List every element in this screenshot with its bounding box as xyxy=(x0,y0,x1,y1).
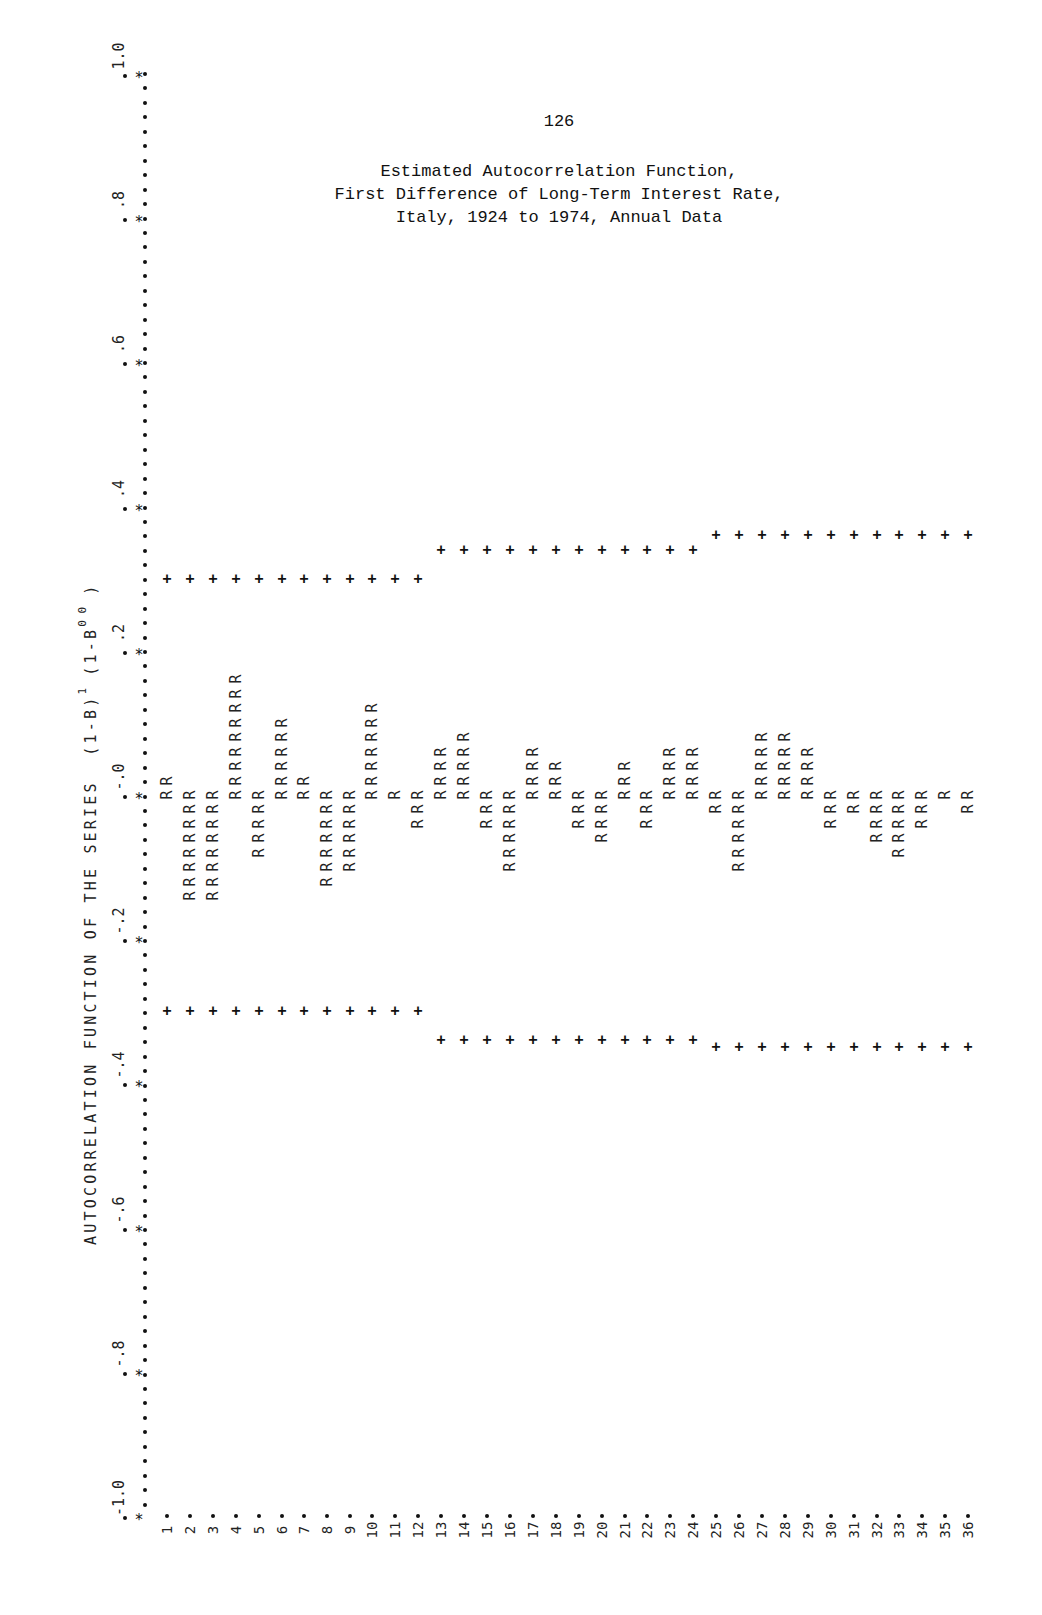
axis-dot xyxy=(143,1387,147,1391)
axis-dot xyxy=(143,347,147,351)
axis-dot xyxy=(143,1242,147,1246)
lower-band-marker: + xyxy=(894,1040,903,1055)
lower-band-marker: + xyxy=(574,1033,583,1048)
axis-tick-dot xyxy=(123,1228,127,1232)
acf-bar-glyph: R xyxy=(755,776,770,785)
acf-bar-glyph: R xyxy=(320,863,335,872)
upper-band-marker: + xyxy=(665,542,674,557)
lower-band-marker: + xyxy=(780,1040,789,1055)
acf-bar-glyph: R xyxy=(229,704,244,713)
acf-bar-glyph: R xyxy=(686,747,701,756)
acf-plot: *-1.0*-.8*-.6*-.4*-.2*-.0*.2*.4*.6*.8*1.… xyxy=(0,0,1042,1615)
upper-band-marker: + xyxy=(482,542,491,557)
acf-bar-glyph: R xyxy=(503,790,518,799)
acf-bar-glyph: R xyxy=(892,805,907,814)
acf-bar-glyph: R xyxy=(640,790,655,799)
upper-band-marker: + xyxy=(162,571,171,586)
axis-dot xyxy=(143,534,147,538)
upper-band-marker: + xyxy=(231,571,240,586)
upper-band-marker: + xyxy=(345,571,354,586)
lag-label: 10 xyxy=(364,1522,380,1539)
baseline-dot xyxy=(875,1514,879,1518)
acf-bar-glyph: R xyxy=(870,790,885,799)
lower-band-marker: + xyxy=(917,1040,926,1055)
acf-bar-glyph: R xyxy=(252,819,267,828)
lower-band-marker: + xyxy=(185,1004,194,1019)
acf-bar-glyph: R xyxy=(801,762,816,771)
axis-dot xyxy=(143,1170,147,1174)
baseline-dot xyxy=(416,1514,420,1518)
lag-label: 36 xyxy=(960,1522,976,1539)
lag-label: 20 xyxy=(594,1522,610,1539)
lag-label: 8 xyxy=(319,1526,335,1534)
lag-label: 19 xyxy=(571,1522,587,1539)
acf-bar-glyph: R xyxy=(343,848,358,857)
lower-band-marker: + xyxy=(665,1033,674,1048)
axis-tick-star: * xyxy=(134,1224,143,1239)
axis-tick-star: * xyxy=(134,1513,143,1528)
lag-label: 1 xyxy=(159,1526,175,1534)
axis-dot xyxy=(143,188,147,192)
acf-bar-glyph: R xyxy=(160,790,175,799)
lag-label: 13 xyxy=(433,1522,449,1539)
acf-bar-glyph: R xyxy=(801,776,816,785)
axis-dot xyxy=(143,1503,147,1507)
baseline-dot xyxy=(806,1514,810,1518)
acf-bar-glyph: R xyxy=(709,805,724,814)
upper-band-marker: + xyxy=(413,571,422,586)
acf-bar-glyph: R xyxy=(526,747,541,756)
upper-band-marker: + xyxy=(551,542,560,557)
lower-band-marker: + xyxy=(367,1004,376,1019)
acf-bar-glyph: R xyxy=(503,834,518,843)
axis-dot xyxy=(143,1329,147,1333)
lag-label: 26 xyxy=(731,1522,747,1539)
axis-tick-dot xyxy=(123,1516,127,1520)
lower-band-marker: + xyxy=(734,1040,743,1055)
acf-bar-glyph: R xyxy=(824,819,839,828)
acf-bar-glyph: R xyxy=(595,819,610,828)
acf-bar-glyph: R xyxy=(229,718,244,727)
baseline-dot xyxy=(462,1514,466,1518)
axis-dot xyxy=(143,1112,147,1116)
acf-bar-glyph: R xyxy=(343,790,358,799)
lower-band-marker: + xyxy=(413,1004,422,1019)
axis-dot xyxy=(143,1401,147,1405)
axis-dot xyxy=(143,939,147,943)
upper-band-marker: + xyxy=(367,571,376,586)
acf-bar-glyph: R xyxy=(732,863,747,872)
baseline-dot xyxy=(485,1514,489,1518)
acf-bar-glyph: R xyxy=(297,790,312,799)
axis-dot xyxy=(143,549,147,553)
axis-dot xyxy=(143,448,147,452)
axis-dot xyxy=(143,1026,147,1030)
acf-bar-glyph: R xyxy=(618,776,633,785)
acf-bar-glyph: R xyxy=(640,819,655,828)
acf-bar-glyph: R xyxy=(183,834,198,843)
lag-label: 28 xyxy=(777,1522,793,1539)
upper-band-marker: + xyxy=(505,542,514,557)
acf-bar-glyph: R xyxy=(206,819,221,828)
axis-dot xyxy=(143,274,147,278)
acf-bar-glyph: R xyxy=(709,790,724,799)
upper-band-marker: + xyxy=(597,542,606,557)
axis-dot xyxy=(143,650,147,654)
acf-bar-glyph: R xyxy=(755,790,770,799)
baseline-dot xyxy=(508,1514,512,1518)
baseline-dot xyxy=(554,1514,558,1518)
acf-bar-glyph: R xyxy=(320,819,335,828)
axis-tick-dot xyxy=(123,74,127,78)
upper-band-marker: + xyxy=(894,528,903,543)
axis-tick-label: 1.0 xyxy=(110,42,128,69)
acf-bar-glyph: R xyxy=(778,733,793,742)
axis-dot xyxy=(143,202,147,206)
axis-dot xyxy=(143,289,147,293)
acf-bar-glyph: R xyxy=(961,790,976,799)
acf-bar-glyph: R xyxy=(434,776,449,785)
upper-band-marker: + xyxy=(390,571,399,586)
acf-bar-glyph: R xyxy=(778,762,793,771)
lower-band-marker: + xyxy=(757,1040,766,1055)
lag-label: 22 xyxy=(639,1522,655,1539)
acf-bar-glyph: R xyxy=(686,776,701,785)
axis-tick-star: * xyxy=(134,792,143,807)
axis-tick-dot xyxy=(123,1083,127,1087)
